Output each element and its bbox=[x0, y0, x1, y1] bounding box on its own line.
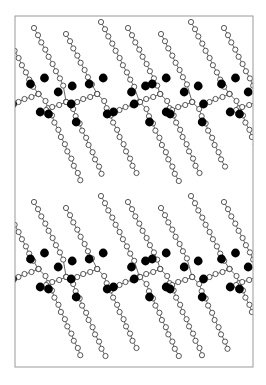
chain-atom bbox=[221, 25, 226, 30]
chain-atom bbox=[115, 127, 120, 132]
chain-atom bbox=[178, 127, 183, 132]
chain-atom bbox=[247, 250, 252, 255]
ion bbox=[231, 249, 240, 258]
chain-atom bbox=[5, 208, 10, 213]
chain-atom bbox=[153, 303, 158, 308]
chain-atom bbox=[214, 244, 219, 249]
chain-atom bbox=[75, 53, 80, 58]
ion bbox=[198, 293, 207, 302]
chain-atom bbox=[57, 102, 62, 107]
chain-atom bbox=[98, 193, 103, 198]
chain-atom bbox=[110, 41, 115, 46]
chain-atom bbox=[216, 150, 221, 155]
chain-atom bbox=[124, 244, 129, 249]
bond bbox=[260, 41, 263, 48]
chain-atom bbox=[120, 237, 125, 242]
chain-atom bbox=[103, 353, 108, 358]
chain-atom bbox=[31, 25, 36, 30]
chain-atom bbox=[262, 338, 266, 343]
chain-atom bbox=[265, 274, 266, 279]
chain-atom bbox=[78, 234, 83, 239]
chain-atom bbox=[69, 331, 74, 336]
ion bbox=[145, 118, 154, 127]
ion bbox=[67, 275, 76, 284]
ion bbox=[85, 255, 94, 264]
chain-atom bbox=[19, 237, 24, 242]
chain-atom bbox=[247, 76, 252, 81]
chain-atom bbox=[257, 39, 262, 44]
chain-atom bbox=[199, 353, 204, 358]
chain-atom bbox=[229, 214, 234, 219]
chain-atom bbox=[102, 201, 107, 206]
chain-atom bbox=[213, 96, 218, 101]
chain-atom bbox=[57, 250, 62, 255]
chain-atom bbox=[92, 157, 97, 162]
bond bbox=[263, 284, 265, 291]
chain-atom bbox=[147, 69, 152, 74]
chain-atom bbox=[0, 19, 3, 24]
bond bbox=[256, 34, 260, 41]
chain-atom bbox=[261, 281, 266, 286]
chain-atom bbox=[261, 220, 266, 225]
chain-atom bbox=[86, 317, 91, 322]
chain-atom bbox=[249, 134, 254, 139]
ion bbox=[8, 100, 17, 109]
chain-atom bbox=[63, 31, 68, 36]
chain-atom bbox=[75, 227, 80, 232]
chain-atom bbox=[78, 178, 83, 183]
ion bbox=[109, 108, 118, 117]
chain-atom bbox=[243, 295, 248, 300]
chain-atom bbox=[212, 317, 217, 322]
chain-atom bbox=[240, 61, 245, 66]
chain-atom bbox=[96, 339, 101, 344]
chain-atom bbox=[253, 142, 258, 147]
ion bbox=[180, 263, 189, 272]
chain-atom bbox=[53, 69, 58, 74]
chain-atom bbox=[222, 164, 227, 169]
chain-atom bbox=[165, 273, 170, 278]
chain-atom bbox=[203, 48, 208, 53]
chain-atom bbox=[31, 199, 36, 204]
ion bbox=[199, 275, 208, 284]
chain-atom bbox=[75, 345, 80, 350]
chain-atom bbox=[157, 310, 162, 315]
chain-atom bbox=[86, 142, 91, 147]
chain-atom bbox=[117, 229, 122, 234]
chain-atom bbox=[233, 47, 238, 52]
chain-atom bbox=[43, 273, 48, 278]
chain-atom bbox=[63, 205, 68, 210]
chain-atom bbox=[46, 54, 51, 59]
chain-atom bbox=[106, 208, 111, 213]
ion bbox=[26, 80, 35, 89]
bond bbox=[253, 260, 256, 277]
bond bbox=[262, 159, 264, 166]
chain-atom bbox=[81, 96, 86, 101]
chain-atom bbox=[102, 98, 107, 103]
chain-atom bbox=[58, 309, 63, 314]
ion bbox=[217, 80, 226, 89]
chain-atom bbox=[203, 222, 208, 227]
chain-atom bbox=[84, 310, 89, 315]
chain-atom bbox=[127, 331, 132, 336]
chain-atom bbox=[183, 102, 188, 107]
chain-atom bbox=[144, 281, 149, 286]
chain-atom bbox=[254, 274, 259, 279]
ion bbox=[235, 285, 244, 294]
bond bbox=[256, 144, 258, 151]
bond bbox=[263, 48, 266, 55]
bond bbox=[0, 22, 4, 29]
chain-atom bbox=[102, 273, 107, 278]
ion bbox=[217, 255, 226, 264]
bond bbox=[256, 277, 263, 284]
ion bbox=[162, 108, 171, 117]
chain-atom bbox=[110, 215, 115, 220]
chain-atom bbox=[111, 295, 116, 300]
chain-atom bbox=[50, 235, 55, 240]
chain-atom bbox=[140, 54, 145, 59]
chain-atom bbox=[78, 60, 83, 65]
chain-atom bbox=[190, 331, 195, 336]
chain-atom bbox=[56, 127, 61, 132]
chain-atom bbox=[216, 325, 221, 330]
chain-atom bbox=[176, 353, 181, 358]
ion bbox=[148, 255, 157, 264]
